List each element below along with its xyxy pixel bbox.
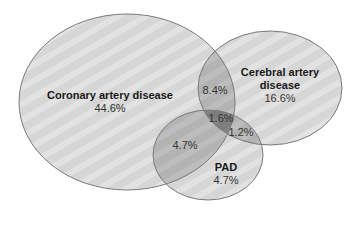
overlap-cad-cerebral-value: 8.4% <box>202 84 227 96</box>
pad-label: PAD 4.7% <box>213 161 238 187</box>
cerebral-name-line1: Cerebral artery <box>241 66 319 79</box>
overlap-cad-cerebral-pad-value: 1.6% <box>208 112 233 124</box>
pad-value: 4.7% <box>213 174 238 187</box>
cerebral-label: Cerebral artery disease 16.6% <box>241 66 319 105</box>
cerebral-name-line2: disease <box>241 79 319 92</box>
cad-value: 44.6% <box>47 102 173 115</box>
cad-name: Coronary artery disease <box>47 89 173 102</box>
pad-name: PAD <box>213 161 238 174</box>
cerebral-value: 16.6% <box>241 92 319 105</box>
overlap-cad-pad-value: 4.7% <box>172 139 197 151</box>
cad-label: Coronary artery disease 44.6% <box>47 89 173 115</box>
overlap-cerebral-pad-value: 1.2% <box>228 126 253 138</box>
